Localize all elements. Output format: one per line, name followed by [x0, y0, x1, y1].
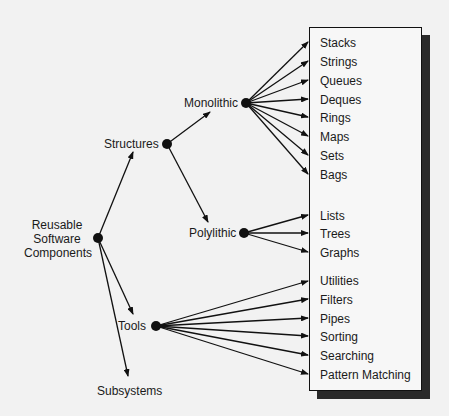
list-item-deques: Deques [320, 93, 361, 107]
list-item-queues: Queues [320, 74, 362, 88]
list-item-maps: Maps [320, 130, 349, 144]
root-label-line-3: Components [24, 246, 90, 260]
list-item-sets: Sets [320, 149, 344, 163]
list-item-sorting: Sorting [320, 330, 358, 344]
list-item-searching: Searching [320, 349, 374, 363]
monolithic-label: Monolithic [184, 96, 238, 110]
list-item-rings: Rings [320, 111, 351, 125]
polylithic-node-dot [239, 228, 249, 238]
root-node-dot [93, 233, 103, 243]
root-label: Reusable Software Components [24, 218, 90, 260]
list-item-stacks: Stacks [320, 36, 356, 50]
list-item-utilities: Utilities [320, 274, 359, 288]
structures-label: Structures [104, 137, 159, 151]
component-list-box: Stacks Strings Queues Deques Rings Maps … [309, 27, 422, 391]
list-item-trees: Trees [320, 227, 350, 241]
list-item-graphs: Graphs [320, 246, 359, 260]
root-label-line-2: Software [24, 232, 90, 246]
list-item-strings: Strings [320, 55, 357, 69]
structures-node-dot [162, 139, 172, 149]
list-item-pattern-matching: Pattern Matching [320, 368, 411, 382]
list-item-filters: Filters [320, 293, 353, 307]
tools-node-dot [151, 321, 161, 331]
list-item-pipes: Pipes [320, 312, 350, 326]
root-label-line-1: Reusable [24, 218, 90, 232]
list-item-bags: Bags [320, 168, 347, 182]
subsystems-label: Subsystems [97, 384, 162, 398]
polylithic-label: Polylithic [189, 226, 236, 240]
tools-label: Tools [118, 319, 146, 333]
monolithic-node-dot [241, 98, 251, 108]
list-item-lists: Lists [320, 209, 345, 223]
